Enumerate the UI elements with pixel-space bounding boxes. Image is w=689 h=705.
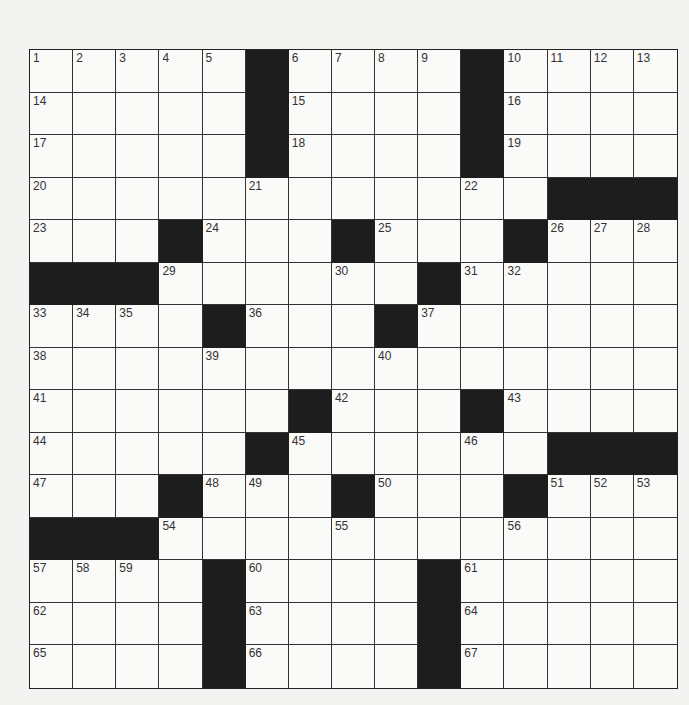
grid-cell[interactable] — [289, 475, 332, 518]
grid-cell[interactable]: 29 — [159, 263, 202, 306]
grid-cell[interactable] — [159, 93, 202, 136]
grid-cell[interactable]: 20 — [30, 178, 73, 221]
grid-cell[interactable] — [634, 603, 677, 646]
grid-cell[interactable] — [203, 93, 246, 136]
grid-cell[interactable] — [418, 348, 461, 391]
grid-cell[interactable] — [375, 603, 418, 646]
grid-cell[interactable]: 40 — [375, 348, 418, 391]
grid-cell[interactable] — [461, 220, 504, 263]
grid-cell[interactable]: 57 — [30, 560, 73, 603]
grid-cell[interactable] — [73, 135, 116, 178]
grid-cell[interactable] — [203, 135, 246, 178]
grid-cell[interactable] — [418, 220, 461, 263]
grid-cell[interactable]: 58 — [73, 560, 116, 603]
grid-cell[interactable] — [548, 560, 591, 603]
grid-cell[interactable]: 37 — [418, 305, 461, 348]
grid-cell[interactable] — [634, 518, 677, 561]
grid-cell[interactable] — [418, 135, 461, 178]
grid-cell[interactable] — [289, 220, 332, 263]
grid-cell[interactable] — [591, 390, 634, 433]
grid-cell[interactable]: 31 — [461, 263, 504, 306]
grid-cell[interactable] — [548, 603, 591, 646]
grid-cell[interactable]: 56 — [504, 518, 547, 561]
grid-cell[interactable]: 2 — [73, 50, 116, 93]
grid-cell[interactable] — [548, 518, 591, 561]
grid-cell[interactable]: 7 — [332, 50, 375, 93]
grid-cell[interactable] — [289, 603, 332, 646]
grid-cell[interactable]: 41 — [30, 390, 73, 433]
grid-cell[interactable] — [159, 433, 202, 476]
grid-cell[interactable]: 53 — [634, 475, 677, 518]
grid-cell[interactable] — [203, 390, 246, 433]
grid-cell[interactable] — [116, 135, 159, 178]
grid-cell[interactable]: 11 — [548, 50, 591, 93]
grid-cell[interactable] — [504, 178, 547, 221]
grid-cell[interactable] — [73, 93, 116, 136]
grid-cell[interactable]: 48 — [203, 475, 246, 518]
grid-cell[interactable]: 4 — [159, 50, 202, 93]
grid-cell[interactable] — [461, 348, 504, 391]
grid-cell[interactable] — [375, 560, 418, 603]
grid-cell[interactable]: 35 — [116, 305, 159, 348]
grid-cell[interactable]: 18 — [289, 135, 332, 178]
grid-cell[interactable]: 27 — [591, 220, 634, 263]
grid-cell[interactable]: 21 — [246, 178, 289, 221]
grid-cell[interactable]: 39 — [203, 348, 246, 391]
grid-cell[interactable] — [116, 603, 159, 646]
grid-cell[interactable] — [159, 560, 202, 603]
grid-cell[interactable]: 1 — [30, 50, 73, 93]
grid-cell[interactable]: 52 — [591, 475, 634, 518]
grid-cell[interactable]: 38 — [30, 348, 73, 391]
grid-cell[interactable]: 9 — [418, 50, 461, 93]
grid-cell[interactable]: 34 — [73, 305, 116, 348]
grid-cell[interactable] — [591, 348, 634, 391]
grid-cell[interactable] — [591, 305, 634, 348]
grid-cell[interactable] — [73, 433, 116, 476]
grid-cell[interactable] — [548, 305, 591, 348]
grid-cell[interactable]: 30 — [332, 263, 375, 306]
grid-cell[interactable] — [591, 603, 634, 646]
grid-cell[interactable] — [73, 390, 116, 433]
grid-cell[interactable] — [418, 518, 461, 561]
grid-cell[interactable] — [332, 135, 375, 178]
grid-cell[interactable] — [246, 348, 289, 391]
grid-cell[interactable]: 50 — [375, 475, 418, 518]
grid-cell[interactable] — [289, 518, 332, 561]
grid-cell[interactable] — [375, 93, 418, 136]
grid-cell[interactable]: 23 — [30, 220, 73, 263]
grid-cell[interactable]: 15 — [289, 93, 332, 136]
grid-cell[interactable] — [246, 518, 289, 561]
grid-cell[interactable] — [461, 518, 504, 561]
grid-cell[interactable]: 44 — [30, 433, 73, 476]
grid-cell[interactable] — [116, 348, 159, 391]
grid-cell[interactable] — [332, 348, 375, 391]
grid-cell[interactable] — [504, 603, 547, 646]
grid-cell[interactable]: 64 — [461, 603, 504, 646]
grid-cell[interactable] — [159, 348, 202, 391]
grid-cell[interactable] — [418, 93, 461, 136]
grid-cell[interactable] — [634, 348, 677, 391]
grid-cell[interactable] — [116, 475, 159, 518]
grid-cell[interactable] — [504, 305, 547, 348]
grid-cell[interactable] — [159, 390, 202, 433]
grid-cell[interactable] — [332, 560, 375, 603]
grid-cell[interactable] — [116, 433, 159, 476]
grid-cell[interactable]: 24 — [203, 220, 246, 263]
grid-cell[interactable]: 61 — [461, 560, 504, 603]
grid-cell[interactable]: 6 — [289, 50, 332, 93]
grid-cell[interactable] — [116, 220, 159, 263]
grid-cell[interactable]: 19 — [504, 135, 547, 178]
grid-cell[interactable] — [418, 433, 461, 476]
grid-cell[interactable] — [634, 560, 677, 603]
grid-cell[interactable] — [375, 263, 418, 306]
grid-cell[interactable] — [548, 348, 591, 391]
grid-cell[interactable]: 46 — [461, 433, 504, 476]
grid-cell[interactable] — [203, 433, 246, 476]
grid-cell[interactable] — [159, 645, 202, 688]
grid-cell[interactable] — [116, 645, 159, 688]
grid-cell[interactable]: 62 — [30, 603, 73, 646]
grid-cell[interactable] — [289, 178, 332, 221]
grid-cell[interactable] — [548, 135, 591, 178]
grid-cell[interactable]: 47 — [30, 475, 73, 518]
grid-cell[interactable] — [591, 93, 634, 136]
